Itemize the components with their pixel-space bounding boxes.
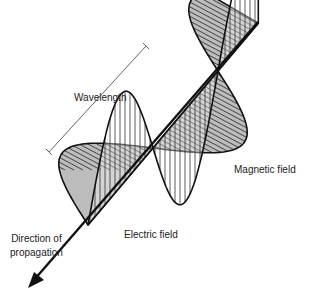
magnetic-field-label: Magnetic field	[234, 164, 296, 176]
arrow-down-left-icon	[28, 272, 44, 288]
magnetic-field-wave	[0, 0, 314, 225]
magnetic-lobe	[0, 0, 314, 225]
wavelength-label: Wavelength	[74, 92, 126, 104]
direction-of-propagation-label: Direction of propagation	[10, 232, 63, 260]
direction-label-line2: propagation	[10, 246, 63, 260]
electric-field-label: Electric field	[124, 229, 178, 241]
direction-label-line1: Direction of	[10, 232, 63, 246]
